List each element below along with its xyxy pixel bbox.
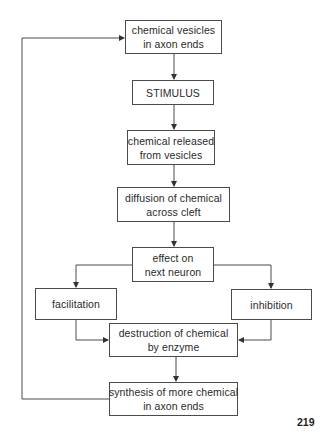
node-facilitation: facilitation [35,288,117,320]
node-label: in axon ends [143,399,204,413]
page-number: 219 [297,416,315,428]
node-label: from vesicles [140,148,203,162]
node-label: destruction of chemical [119,326,229,340]
node-destruction: destruction of chemical by enzyme [109,323,238,357]
node-stimulus: STIMULUS [132,80,214,105]
arrow-effect-to-inhibition [214,265,271,288]
node-label: chemical released [128,134,214,148]
node-label: by enzyme [148,340,200,354]
node-synthesis: synthesis of more chemical in axon ends [109,382,238,416]
node-label: inhibition [250,298,292,312]
node-inhibition: inhibition [231,289,312,320]
node-label: across cleft [146,205,200,219]
node-label: effect on [153,251,194,265]
node-label: STIMULUS [146,86,200,100]
arrow-inhibition-to-destruction [239,319,271,340]
node-label: in axon ends [143,37,204,51]
node-label: facilitation [52,297,100,311]
flowchart: chemical vesicles in axon ends STIMULUS … [0,0,330,439]
arrow-facilitation-to-destruction [76,320,108,340]
node-chemical-released: chemical released from vesicles [127,130,215,165]
node-effect-on-next-neuron: effect on next neuron [132,247,214,282]
node-label: chemical vesicles [132,23,215,37]
node-label: diffusion of chemical [125,191,222,205]
arrow-effect-to-facilitation [76,265,132,287]
node-diffusion: diffusion of chemical across cleft [117,187,230,222]
node-label: next neuron [145,265,202,279]
node-label: synthesis of more chemical [109,385,238,399]
node-chemical-vesicles: chemical vesicles in axon ends [125,20,222,54]
